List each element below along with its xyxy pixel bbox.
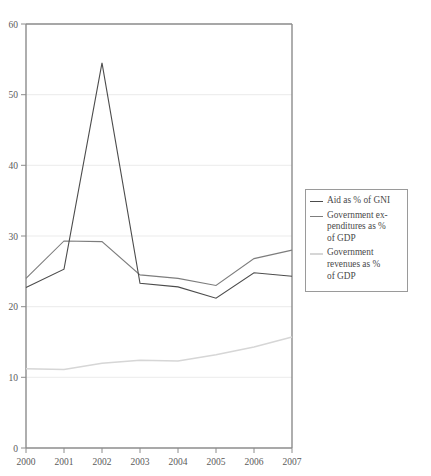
- xtick-label-2006: 2006: [245, 457, 264, 467]
- ytick-label-40: 40: [9, 161, 19, 171]
- chart-legend: Aid as % of GNI Government ex- penditure…: [305, 189, 408, 292]
- legend-swatch-line-icon: [310, 253, 323, 254]
- x-axis-ticks: [26, 448, 292, 453]
- series-line-revenues: [26, 337, 292, 370]
- series-lines: [26, 63, 292, 370]
- xtick-label-2000: 2000: [17, 457, 36, 467]
- xtick-label-2005: 2005: [207, 457, 226, 467]
- xtick-label-2007: 2007: [283, 457, 302, 467]
- xtick-label-2004: 2004: [169, 457, 188, 467]
- ytick-label-10: 10: [9, 373, 19, 383]
- legend-swatch-line-icon: [310, 216, 323, 217]
- ytick-label-50: 50: [9, 90, 19, 100]
- legend-item-expenditures: Government ex- penditures as % of GDP: [310, 210, 403, 245]
- legend-label-expenditures: Government ex- penditures as % of GDP: [327, 210, 388, 245]
- legend-label-revenues: Government revenues as % of GDP: [327, 247, 380, 282]
- y-axis-labels: 60 50 40 30 20 10 0: [9, 20, 19, 454]
- xtick-label-2003: 2003: [131, 457, 150, 467]
- legend-item-revenues: Government revenues as % of GDP: [310, 247, 403, 282]
- x-axis-labels: 2000 2001 2002 2003 2004 2005 2006 2007: [17, 457, 302, 467]
- series-line-expenditures: [26, 241, 292, 286]
- ytick-label-60: 60: [9, 20, 19, 30]
- y-axis-ticks: [21, 24, 26, 448]
- ytick-label-0: 0: [13, 444, 18, 454]
- ytick-label-30: 30: [9, 232, 19, 242]
- ytick-label-20: 20: [9, 302, 19, 312]
- gridlines: [26, 24, 292, 377]
- series-line-aid: [26, 63, 292, 298]
- xtick-label-2001: 2001: [55, 457, 74, 467]
- legend-label-aid: Aid as % of GNI: [327, 195, 390, 207]
- xtick-label-2002: 2002: [93, 457, 112, 467]
- chart-container: 60 50 40 30 20 10 0 2000 2001 2002 2003 …: [0, 0, 431, 476]
- legend-item-aid: Aid as % of GNI: [310, 195, 403, 207]
- legend-swatch-line-icon: [310, 201, 323, 202]
